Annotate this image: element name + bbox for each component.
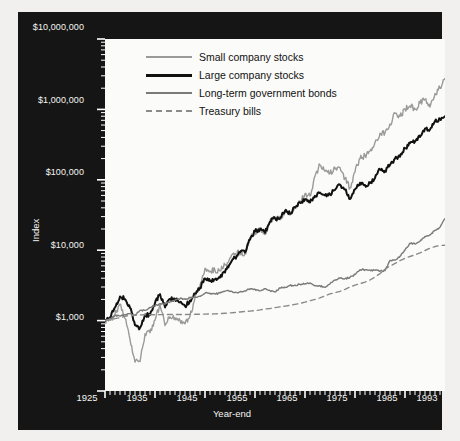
ytick-label-1: $1,000,000 <box>6 95 84 105</box>
legend-label: Treasury bills <box>199 105 261 117</box>
legend-line-swatch <box>146 56 192 58</box>
series-line-large-company-stocks <box>105 116 445 329</box>
xtick-label-3: 1955 <box>212 392 262 403</box>
x-axis-title: Year-end <box>162 408 302 419</box>
legend-item-2[interactable]: Long-term government bonds <box>146 84 396 102</box>
series-line-long-term-government-bonds <box>105 219 445 321</box>
chart-panel: $10,000,000 $1,000,000 $100,000 $10,000 … <box>18 12 442 430</box>
legend-label: Small company stocks <box>199 51 303 63</box>
xtick-label-7: 1993 <box>402 392 452 403</box>
series-line-treasury-bills <box>105 245 445 320</box>
legend-item-1[interactable]: Large company stocks <box>146 66 396 84</box>
legend-item-0[interactable]: Small company stocks <box>146 48 396 66</box>
y-axis-title: Index <box>30 219 41 242</box>
xtick-label-0: 1925 <box>62 392 112 403</box>
xtick-label-2: 1945 <box>162 392 212 403</box>
legend-line-swatch <box>146 110 192 112</box>
ytick-label-4: $1,000 <box>6 312 84 322</box>
legend-line-swatch <box>146 92 192 94</box>
chart-legend: Small company stocksLarge company stocks… <box>146 48 396 120</box>
chart-root: $10,000,000 $1,000,000 $100,000 $10,000 … <box>0 0 460 441</box>
legend-line-swatch <box>146 74 192 77</box>
ytick-label-0: $10,000,000 <box>6 22 84 32</box>
legend-label: Long-term government bonds <box>199 87 337 99</box>
legend-label: Large company stocks <box>199 69 304 81</box>
ytick-label-2: $100,000 <box>6 167 84 177</box>
xtick-label-5: 1975 <box>312 392 362 403</box>
xtick-label-4: 1965 <box>262 392 312 403</box>
legend-item-3[interactable]: Treasury bills <box>146 102 396 120</box>
ytick-label-3: $10,000 <box>6 240 84 250</box>
xtick-label-1: 1935 <box>112 392 162 403</box>
